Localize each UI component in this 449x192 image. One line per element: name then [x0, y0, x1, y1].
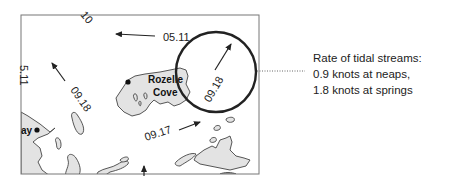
islet — [144, 93, 147, 99]
island — [55, 138, 61, 149]
bay-dot-icon — [34, 127, 39, 132]
stream-arrow-east — [179, 122, 200, 130]
stream-label-left-edge: 5.11 — [18, 65, 30, 86]
island — [66, 154, 81, 176]
islet — [139, 101, 141, 106]
stream-arrow-northwest — [52, 63, 65, 81]
stream-label-09-18-left: 09.18 — [68, 84, 94, 113]
highlight-circle — [176, 32, 256, 112]
rozelle-cove-dot-icon — [125, 79, 130, 84]
stream-arrow-west — [116, 34, 155, 36]
stream-label-09-18-circled: 09.18 — [201, 74, 225, 104]
left-landmass — [21, 112, 55, 176]
tidal-rate-caption: Rate of tidal streams: 0.9 knots at neap… — [313, 50, 422, 98]
stream-arrow-northeast — [215, 44, 231, 70]
caption-neaps: 0.9 knots at neaps, — [313, 66, 422, 82]
islet — [120, 157, 128, 162]
rozelle-cove-label-line2: Cove — [153, 87, 178, 98]
stream-label-top-edge: 10 — [78, 9, 95, 26]
caption-springs: 1.8 knots at springs — [313, 82, 422, 98]
islet — [214, 125, 221, 130]
bay-label: ay — [21, 125, 33, 136]
islet — [210, 137, 217, 142]
caption-title: Rate of tidal streams: — [313, 50, 422, 66]
stream-label-05-11: 05.11 — [163, 31, 190, 43]
islet — [226, 117, 234, 122]
island — [72, 112, 84, 134]
islet — [175, 153, 196, 166]
lower-right-landmass — [194, 136, 250, 170]
stream-label-09-17: 09.17 — [143, 123, 173, 143]
